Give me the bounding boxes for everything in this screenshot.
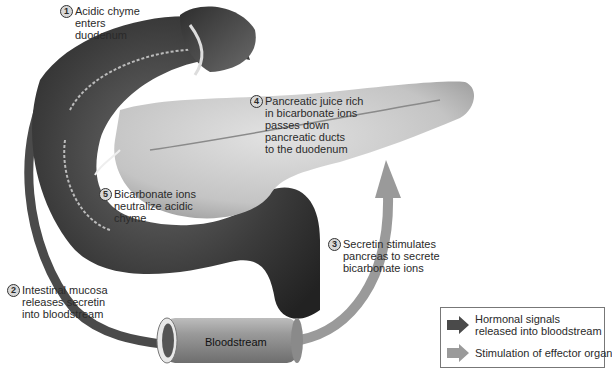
step-1-label: 1Acidic chyme enters duodenum [60, 5, 140, 41]
dark-arrow-icon [447, 316, 469, 334]
step-4-number-badge: 4 [250, 95, 263, 108]
step-3-label: 3Secretin stimulates pancreas to secrete… [328, 238, 440, 274]
step-5-number-badge: 5 [99, 188, 112, 201]
step-3-number-badge: 3 [328, 238, 341, 251]
legend-item-hormonal: Hormonal signals released into bloodstre… [447, 313, 602, 337]
step-2-number-badge: 2 [7, 284, 20, 297]
step-4-text: Pancreatic juice rich in bicarbonate ion… [265, 95, 363, 155]
bloodstream-label: Bloodstream [205, 336, 267, 348]
step-4-label: 4Pancreatic juice rich in bicarbonate io… [250, 95, 363, 155]
step-5-text: Bicarbonate ions neutralize acidic chyme [114, 188, 196, 224]
legend-stimulation-text: Stimulation of effector organ [475, 347, 612, 359]
step-5-label: 5Bicarbonate ions neutralize acidic chym… [99, 188, 196, 224]
step-1-number-badge: 1 [60, 5, 73, 18]
light-arrow-icon [447, 344, 469, 362]
step-2-text: Intestinal mucosa releases secretin into… [22, 284, 108, 320]
legend-hormonal-text: Hormonal signals released into bloodstre… [475, 313, 602, 337]
legend-item-stimulation: Stimulation of effector organ [447, 344, 612, 362]
stomach-icon [180, 7, 256, 75]
step-1-text: Acidic chyme enters duodenum [75, 5, 140, 41]
step-3-text: Secretin stimulates pancreas to secrete … [343, 238, 440, 274]
step-2-label: 2Intestinal mucosa releases secretin int… [7, 284, 108, 320]
legend: Hormonal signals released into bloodstre… [440, 307, 605, 368]
